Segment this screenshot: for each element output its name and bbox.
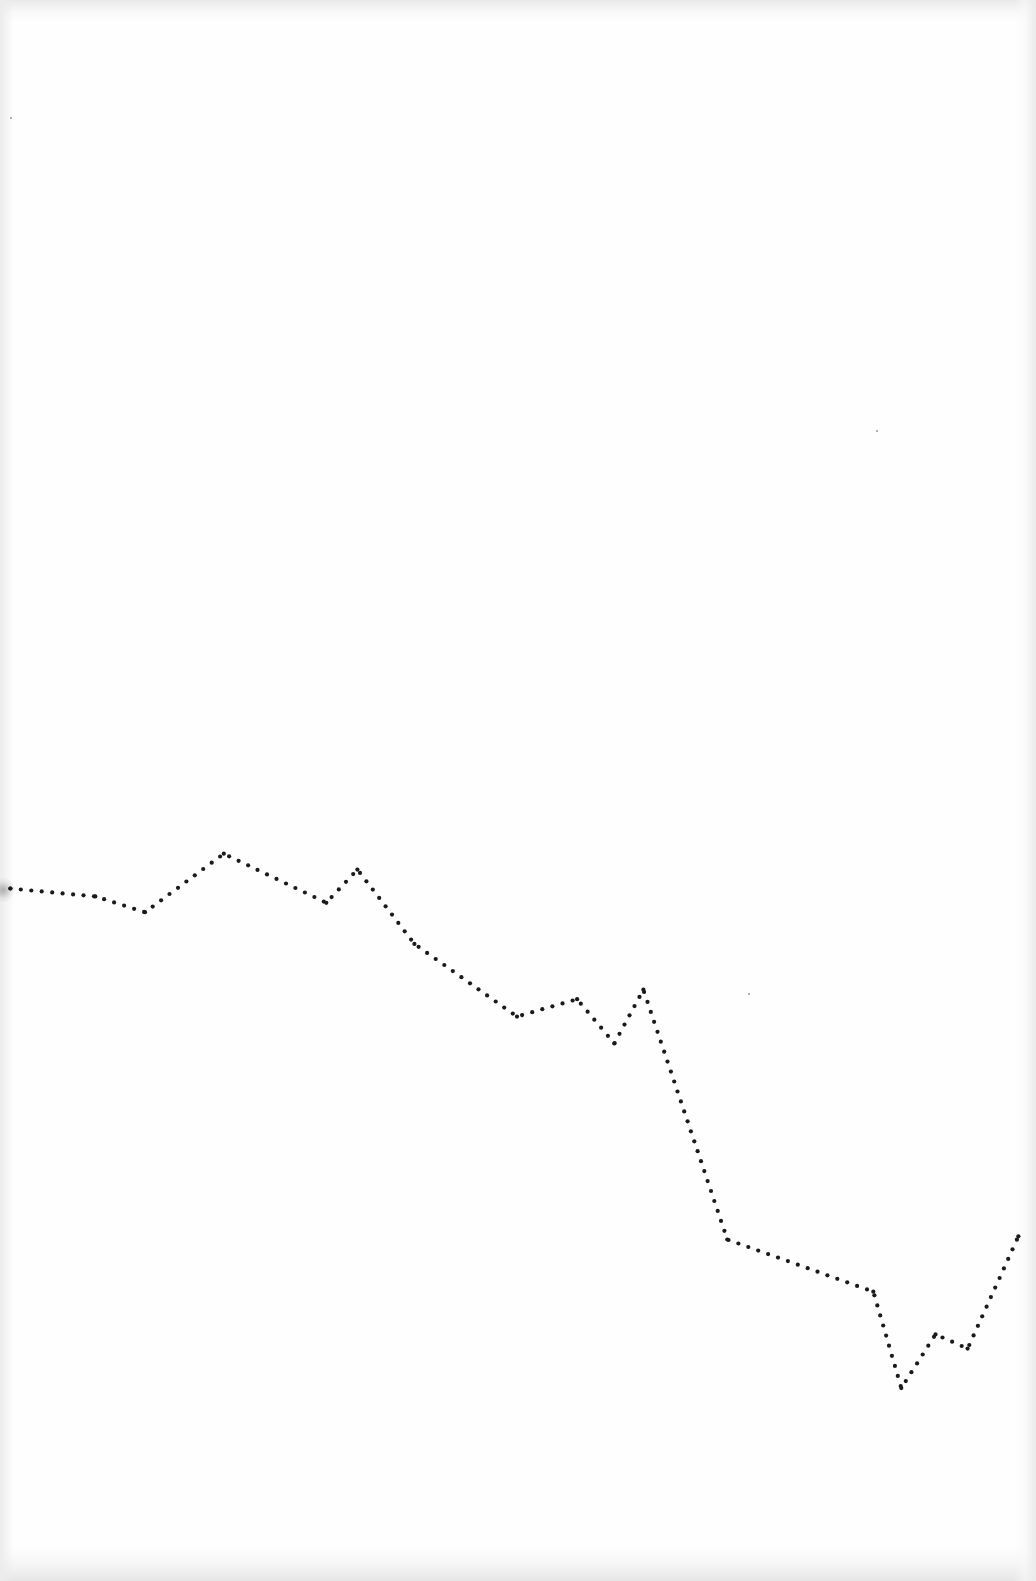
sketch-dot <box>312 895 316 899</box>
sketch-dot <box>675 1089 679 1093</box>
sketch-dot <box>926 1344 930 1348</box>
sketch-dot <box>980 1314 984 1318</box>
sketch-dot <box>351 872 355 876</box>
sketch-dot <box>40 889 44 893</box>
sketch-dot <box>976 1324 980 1328</box>
sketch-dot <box>102 897 106 901</box>
sketch-dot <box>284 881 288 885</box>
sketch-dot <box>627 1013 631 1017</box>
sketch-dot <box>637 995 641 999</box>
sketch-vertex <box>412 942 416 946</box>
sketch-dot <box>19 887 23 891</box>
sketch-dot <box>696 1149 700 1153</box>
sketch-dot <box>649 1010 653 1014</box>
sketch-dot <box>409 938 413 942</box>
sketch-dot <box>855 1284 859 1288</box>
sketch-dot <box>550 1004 554 1008</box>
sketch-dot <box>872 1293 876 1297</box>
sketch-dot <box>689 1129 693 1133</box>
sketch-dot <box>159 898 163 902</box>
sketch-dot <box>1006 1257 1010 1261</box>
sketch-dot <box>845 1280 849 1284</box>
sketch-dot <box>712 1199 716 1203</box>
sketch-dot <box>722 1229 726 1233</box>
sketch-dot <box>921 1352 925 1356</box>
sketch-vertex <box>1016 1234 1020 1238</box>
sketch-dot <box>972 1333 976 1337</box>
sketch-dot <box>617 1032 621 1036</box>
sketch-vertex <box>725 1237 729 1241</box>
sketch-dot <box>71 892 75 896</box>
sketch-dot <box>665 1060 669 1064</box>
sketch-dot <box>274 877 278 881</box>
sketch-dot <box>904 1379 908 1383</box>
sketch-vertex <box>324 901 328 905</box>
sketch-dot <box>606 1034 610 1038</box>
sketch-dot <box>915 1361 919 1365</box>
sketch-dot <box>709 1189 713 1193</box>
sketch-dot <box>950 1340 954 1344</box>
sketch-dot <box>692 1139 696 1143</box>
sketch-dot <box>776 1256 780 1260</box>
sketch-vertex <box>641 988 645 992</box>
sketch-dot <box>672 1079 676 1083</box>
sketch-dot <box>530 1010 534 1014</box>
sketch-dot <box>417 945 421 949</box>
sketch-dot <box>736 1241 740 1245</box>
sketch-dot <box>887 1344 891 1348</box>
sketch-dot <box>890 1354 894 1358</box>
sketch-dot <box>865 1287 869 1291</box>
sketch-dot <box>459 975 463 979</box>
sketch-dot <box>560 1001 564 1005</box>
sketch-dot <box>494 999 498 1003</box>
sketch-dot <box>364 879 368 883</box>
sketch-vertex <box>515 1015 519 1019</box>
sketch-dot <box>476 987 480 991</box>
sketch-dot <box>81 893 85 897</box>
sketch-vertex <box>899 1386 903 1390</box>
sketch-dot <box>893 1364 897 1368</box>
sketch-dot <box>686 1119 690 1123</box>
sketch-vertex <box>8 886 12 890</box>
sketch-dot <box>403 929 407 933</box>
sketch-dot <box>246 863 250 867</box>
sketch-dot <box>29 888 33 892</box>
sketch-dot <box>520 1013 524 1017</box>
sketch-dot <box>659 1040 663 1044</box>
sketch-dot <box>344 880 348 884</box>
sketch-dot <box>434 957 438 961</box>
sketch-vertex <box>93 894 97 898</box>
sketch-dot <box>390 913 394 917</box>
sketch-dot <box>756 1249 760 1253</box>
sketch-dot <box>579 1002 583 1006</box>
sketch-dot <box>652 1020 656 1024</box>
sketch-dot <box>540 1007 544 1011</box>
sketch-dot <box>167 892 171 896</box>
sketch-dot <box>184 879 188 883</box>
sketch-dot <box>377 896 381 900</box>
sketch-dot <box>967 1343 971 1347</box>
sketch-dot <box>210 861 214 865</box>
sketch-dot <box>806 1266 810 1270</box>
sketch-dot <box>255 868 259 872</box>
sketch-dot <box>371 888 375 892</box>
sketch-dot <box>303 890 307 894</box>
sketch-dot <box>993 1286 997 1290</box>
sketch-dot <box>265 872 269 876</box>
sketch-dot <box>960 1344 964 1348</box>
sketch-dot <box>632 1004 636 1008</box>
sketch-dot <box>825 1273 829 1277</box>
sketch-dot <box>706 1179 710 1183</box>
sketch-dot <box>358 871 362 875</box>
dotted-line-sketch <box>0 0 1036 1581</box>
sketch-dot <box>293 886 297 890</box>
sketch-vertex <box>575 997 579 1001</box>
sketch-dot <box>592 1018 596 1022</box>
sketch-dot <box>896 1374 900 1378</box>
sketch-dot <box>702 1169 706 1173</box>
sketch-dot <box>669 1070 673 1074</box>
sketch-dot <box>50 890 54 894</box>
sketch-dot <box>511 1012 515 1016</box>
sketch-dot <box>112 900 116 904</box>
sketch-dot <box>599 1026 603 1030</box>
